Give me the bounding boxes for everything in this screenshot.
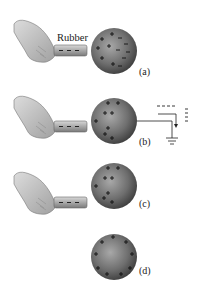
induction-diagram	[0, 0, 199, 288]
label-c: (c)	[139, 198, 150, 209]
hand-icon	[14, 20, 56, 62]
sphere-a	[91, 28, 137, 74]
panel-b	[14, 96, 188, 144]
rod-label: Rubber	[57, 32, 88, 43]
electrons-flow	[157, 106, 188, 121]
sphere-d	[91, 234, 137, 280]
panel-d	[91, 234, 137, 280]
panel-a	[14, 20, 137, 74]
rubber-rod	[54, 45, 87, 56]
label-b: (b)	[139, 136, 151, 147]
label-d: (d)	[139, 265, 151, 276]
panel-c	[14, 163, 137, 214]
label-a: (a)	[139, 66, 150, 77]
arrow-down-icon	[174, 124, 178, 128]
